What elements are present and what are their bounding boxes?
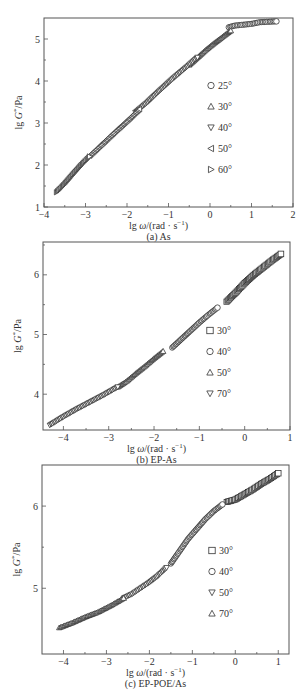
x-tick-label: −1 <box>194 432 205 443</box>
chart-panel-c: −4−3−2−10156lg G*/Palg ω/(rad · s−1)(c) … <box>10 465 289 690</box>
data-series-group <box>47 251 284 428</box>
series-40deg <box>133 55 201 115</box>
data-series-group <box>57 470 281 629</box>
legend-label: 30° <box>217 325 231 336</box>
x-tick-label: −4 <box>58 432 69 443</box>
legend-label: 30° <box>218 101 232 112</box>
legend-label: 50° <box>219 587 233 598</box>
legend-item: 40° <box>208 122 232 133</box>
y-tick-label: 5 <box>35 34 40 45</box>
legend-label: 50° <box>217 367 231 378</box>
y-tick-label: 1 <box>35 202 40 213</box>
legend-item: 30° <box>208 101 232 112</box>
chart-panel-b: −4−3−2−101456lg G*/Palg ω/(rad · s−1)(b)… <box>11 242 293 466</box>
legend-item: 40° <box>209 566 233 577</box>
y-tick-label: 6 <box>33 501 38 512</box>
series-70deg <box>47 385 120 428</box>
y-tick-label: 5 <box>33 583 38 594</box>
series-25deg <box>226 19 279 30</box>
panel-caption: (b) EP-As <box>136 454 176 466</box>
x-tick-label: −1 <box>187 656 198 667</box>
x-tick-label: −4 <box>58 656 69 667</box>
panel-caption: (c) EP-POE/As <box>125 678 186 690</box>
legend-item: 25° <box>208 80 232 91</box>
figure: −4−3−2−101212345lg G*/Palg ω/(rad · s−1)… <box>0 0 308 699</box>
x-tick-label: −4 <box>39 209 50 220</box>
x-tick-label: 0 <box>208 209 213 220</box>
series-50deg <box>115 348 166 389</box>
legend: 25°30°40°50°60° <box>208 80 232 175</box>
data-series-group <box>54 19 279 195</box>
legend-item: 50° <box>209 587 233 598</box>
x-tick-label: −1 <box>163 209 174 220</box>
y-tick-label: 3 <box>35 118 40 129</box>
legend: 30°40°50°70° <box>209 545 233 619</box>
x-tick-label: 1 <box>249 209 254 220</box>
x-tick-label: 1 <box>276 656 281 667</box>
y-axis-label: lg G*/Pa <box>12 95 24 129</box>
legend-item: 30° <box>209 545 233 556</box>
series-40deg <box>168 502 225 567</box>
y-tick-label: 4 <box>35 76 40 87</box>
series-30deg <box>224 470 281 504</box>
y-tick-label: 5 <box>34 329 39 340</box>
y-tick-label: 2 <box>35 160 40 171</box>
legend-label: 70° <box>219 608 233 619</box>
x-tick-label: −3 <box>101 656 112 667</box>
y-tick-label: 6 <box>34 269 39 280</box>
x-tick-label: −2 <box>149 432 160 443</box>
legend-label: 30° <box>219 545 233 556</box>
y-axis-label: lg G*/Pa <box>10 542 22 576</box>
legend-item: 30° <box>207 325 231 336</box>
legend-item: 70° <box>209 608 233 619</box>
series-60deg <box>54 154 92 195</box>
legend-label: 40° <box>219 566 233 577</box>
plot-frame <box>44 18 293 207</box>
legend-label: 70° <box>217 388 231 399</box>
legend: 30°40°50°70° <box>207 325 231 399</box>
legend-item: 50° <box>208 143 232 154</box>
panel-caption: (a) As <box>146 231 170 243</box>
x-tick-label: 0 <box>233 656 238 667</box>
chart-panel-a: −4−3−2−101212345lg G*/Palg ω/(rad · s−1)… <box>12 18 296 243</box>
series-70deg <box>57 595 127 629</box>
legend-label: 40° <box>217 346 231 357</box>
x-tick-label: 0 <box>242 432 247 443</box>
series-50deg <box>87 106 142 158</box>
legend-label: 25° <box>218 80 232 91</box>
legend-label: 50° <box>218 143 232 154</box>
plot-frame <box>43 242 290 430</box>
x-tick-label: −3 <box>80 209 91 220</box>
y-tick-label: 4 <box>34 389 39 400</box>
y-axis-label: lg G*/Pa <box>11 319 23 353</box>
x-tick-label: −2 <box>122 209 133 220</box>
x-tick-label: 1 <box>288 432 293 443</box>
legend-item: 70° <box>207 388 231 399</box>
series-30deg <box>224 251 284 304</box>
legend-item: 50° <box>207 367 231 378</box>
x-tick-label: 2 <box>291 209 296 220</box>
legend-label: 40° <box>218 122 232 133</box>
series-50deg <box>121 565 169 600</box>
x-tick-label: −3 <box>103 432 114 443</box>
legend-item: 40° <box>207 346 231 357</box>
legend-label: 60° <box>218 164 232 175</box>
legend-item: 60° <box>208 164 232 175</box>
x-tick-label: −2 <box>144 656 155 667</box>
